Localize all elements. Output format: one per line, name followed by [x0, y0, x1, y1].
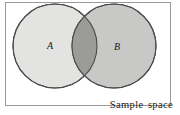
venn-diagram-canvas: [0, 0, 180, 115]
sample-space-label: Sample space: [110, 99, 173, 110]
set-b-label: B: [114, 42, 120, 52]
set-a-label: A: [47, 41, 53, 51]
venn-diagram-figure: A B Sample space: [0, 0, 180, 115]
